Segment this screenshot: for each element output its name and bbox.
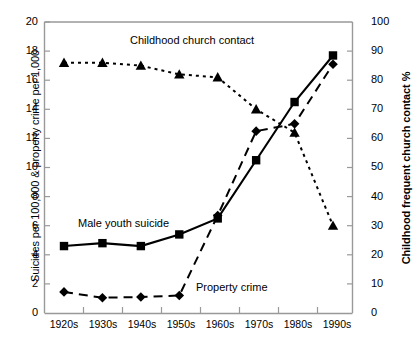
data-point-marker	[290, 119, 300, 129]
data-point-marker	[328, 221, 338, 230]
data-point-marker	[251, 104, 261, 113]
axis-lines	[45, 22, 353, 314]
data-point-marker	[213, 72, 223, 81]
data-point-marker	[290, 98, 298, 106]
data-point-marker	[329, 51, 337, 59]
data-point-marker	[289, 127, 299, 136]
data-point-marker	[59, 58, 69, 67]
data-point-marker	[60, 242, 68, 250]
annotation-male-youth-suicide: Male youth suicide	[78, 217, 169, 229]
data-point-marker	[136, 292, 146, 302]
data-point-marker	[251, 126, 261, 136]
data-point-marker	[98, 293, 108, 303]
data-point-marker	[252, 156, 260, 164]
data-series-layer	[59, 51, 338, 302]
chart-figure: Suicides per 100,000 & property crime pe…	[0, 0, 414, 354]
data-point-marker	[98, 239, 106, 247]
data-point-marker	[174, 291, 184, 301]
data-point-marker	[59, 287, 69, 297]
plot-area	[0, 0, 414, 354]
series-line	[64, 63, 333, 226]
axis-ticks	[45, 22, 353, 313]
annotation-church-contact: Childhood church contact	[130, 34, 254, 46]
data-point-marker	[137, 242, 145, 250]
annotation-property-crime: Property crime	[196, 281, 268, 293]
data-point-marker	[136, 60, 146, 69]
data-point-marker	[175, 230, 183, 238]
